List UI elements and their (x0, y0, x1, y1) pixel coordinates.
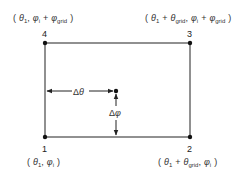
corner-number-1: 1 (42, 144, 47, 154)
delta-theta-label: Δθ (73, 87, 84, 97)
corner-label-1: (θ1,φi) (27, 157, 60, 168)
corner-point-4 (43, 41, 47, 45)
corner-number-3: 3 (187, 29, 192, 39)
corner-point-2 (188, 135, 192, 139)
corner-number-4: 4 (42, 29, 47, 39)
corner-number-2: 2 (187, 144, 192, 154)
corner-point-3 (188, 41, 192, 45)
corner-label-3: (θ1+θgrid,φi+φgrid) (145, 13, 231, 24)
corner-point-1 (43, 135, 47, 139)
grid-cell-diagram: Δθ Δφ 4 3 1 2 (θ1,φi+φgrid) (θ1+θgrid,φi… (0, 0, 250, 177)
corner-label-2: (θ1+θgrid,φi) (158, 157, 217, 168)
delta-phi-label: Δφ (109, 108, 121, 118)
corner-label-4: (θ1,φi+φgrid) (13, 13, 73, 24)
interpolation-point (114, 89, 118, 93)
